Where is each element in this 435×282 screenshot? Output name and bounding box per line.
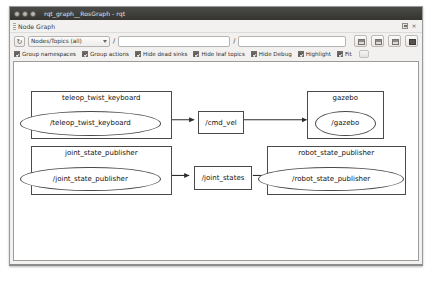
window-titlebar: rqt_graph__RosGraph - rqt [10,7,422,20]
rqt-main-window: rqt_graph__RosGraph - rqt Node Graph × ↻… [9,6,423,266]
node-robot-state-publisher[interactable]: /robot_state_publisher [258,167,403,192]
node-label: /joint_state_publisher [53,175,128,183]
dock-widget-title: Node Graph [18,23,55,30]
more-options-button[interactable] [359,50,369,58]
close-dock-icon[interactable]: × [411,23,417,29]
filter-mode-select[interactable]: Nodes/Topics (all) [28,36,110,47]
checkbox-label: Group actions [90,51,129,57]
checkbox-label: Hide dead sinks [143,51,187,57]
checkbox-hide-dead-sinks[interactable]: Hide dead sinks [135,51,187,57]
topic-filter-prefix: / [113,37,115,45]
checkbox-icon [337,51,343,57]
topic-label: /cmd_vel [205,119,236,127]
checkbox-hide-debug[interactable]: Hide Debug [251,51,292,57]
cluster-label: teleop_twist_keyboard [32,94,171,102]
topic-joint-states[interactable]: /joint_states [194,166,253,190]
graph-canvas[interactable]: teleop_twist_keyboard /teleop_twist_keyb… [13,61,419,261]
node-label: /teleop_twist_keyboard [50,119,131,127]
float-dock-icon[interactable] [402,23,408,29]
graph-toolbar: ↻ Nodes/Topics (all) / / [10,33,422,49]
chevron-down-icon [103,40,107,43]
refresh-icon: ↻ [15,37,24,46]
node-label: /robot_state_publisher [292,175,370,183]
checkbox-label: Fit [345,51,352,57]
window-controls [14,11,36,17]
checkbox-hide-leaf-topics[interactable]: Hide leaf topics [193,51,244,57]
window-title: rqt_graph__RosGraph - rqt [44,10,125,17]
node-joint-state-publisher[interactable]: /joint_state_publisher [20,167,161,192]
node-filter-input[interactable] [238,36,346,47]
node-label: /gazebo [331,119,359,127]
checkbox-fit[interactable]: Fit [337,51,352,57]
checkbox-group-actions[interactable]: Group actions [82,51,129,57]
topic-label: /joint_states [202,174,245,182]
dock-actions: × [402,23,419,29]
checkbox-label: Hide leaf topics [201,51,244,57]
save-dot-button[interactable] [354,35,367,47]
node-gazebo[interactable]: /gazebo [315,111,376,136]
cluster-label: joint_state_publisher [32,149,171,157]
toolbar-buttons [354,35,418,47]
dock-grip-icon[interactable] [13,23,16,30]
minimize-window-button[interactable] [22,11,28,17]
cluster-label: gazebo [308,94,383,102]
graph-scene: teleop_twist_keyboard /teleop_twist_keyb… [14,62,418,260]
refresh-button[interactable]: ↻ [14,36,25,47]
checkbox-label: Group namespaces [22,51,76,57]
checkbox-icon [298,51,304,57]
save-image-button[interactable] [388,35,401,47]
checkbox-icon [135,51,141,57]
checkbox-icon [193,51,199,57]
checkbox-highlight[interactable]: Highlight [298,51,331,57]
cluster-label: robot_state_publisher [268,149,405,157]
node-filter-prefix: / [233,37,235,45]
checkbox-label: Hide Debug [259,51,292,57]
checkbox-label: Highlight [306,51,331,57]
topic-filter-input[interactable] [118,36,230,47]
checkbox-group-namespaces[interactable]: Group namespaces [14,51,76,57]
checkbox-icon [14,51,20,57]
node-teleop-twist-keyboard[interactable]: /teleop_twist_keyboard [20,111,161,136]
dock-widget-header: Node Graph × [10,20,422,33]
checkbox-icon [251,51,257,57]
topic-cmd-vel[interactable]: /cmd_vel [198,111,244,135]
close-window-button[interactable] [14,11,20,17]
checkbox-icon [82,51,88,57]
load-dot-button[interactable] [371,35,384,47]
filter-mode-value: Nodes/Topics (all) [31,38,82,44]
fit-in-view-button[interactable] [405,35,418,47]
maximize-window-button[interactable] [30,11,36,17]
graph-options-row: Group namespaces Group actions Hide dead… [10,49,422,60]
